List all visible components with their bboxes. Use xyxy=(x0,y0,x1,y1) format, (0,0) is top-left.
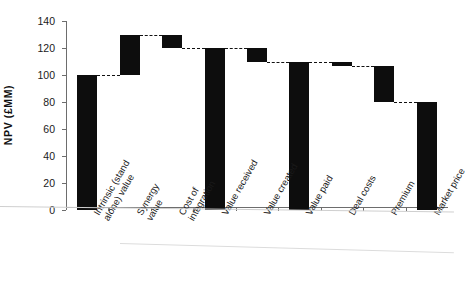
y-tick-label: 80 xyxy=(43,96,55,108)
y-axis-title: NPV (£MM) xyxy=(2,60,14,170)
y-axis-line xyxy=(66,21,67,210)
connector-line xyxy=(352,66,374,67)
bar xyxy=(162,35,182,49)
bar xyxy=(289,62,309,211)
bar xyxy=(247,48,267,62)
bar xyxy=(332,62,352,66)
y-tick-label: 100 xyxy=(37,69,55,81)
y-tick-mark: 20 xyxy=(62,183,66,184)
y-tick-mark: 60 xyxy=(62,129,66,130)
x-axis-labels: Intrinsic (standalone) valueSynergyvalue… xyxy=(66,212,448,297)
connector-line xyxy=(309,62,331,63)
y-tick-label: 60 xyxy=(43,123,55,135)
connector-line xyxy=(225,48,247,49)
y-tick-label: 20 xyxy=(43,177,55,189)
connector-line xyxy=(140,35,162,36)
bar xyxy=(77,75,97,210)
y-tick-mark: 80 xyxy=(62,102,66,103)
y-tick-mark: 120 xyxy=(62,48,66,49)
y-tick-label: 120 xyxy=(37,42,55,54)
connector-line xyxy=(182,48,204,49)
y-tick-mark: 100 xyxy=(62,75,66,76)
bar xyxy=(120,35,140,76)
connector-line xyxy=(394,102,416,103)
connector-line xyxy=(267,62,289,63)
bar xyxy=(374,66,394,102)
y-tick-mark: 0 xyxy=(62,210,66,211)
y-tick-mark: 40 xyxy=(62,156,66,157)
bar xyxy=(417,102,437,210)
y-tick-label: 40 xyxy=(43,150,55,162)
y-tick-label: 140 xyxy=(37,15,55,27)
y-tick-mark: 140 xyxy=(62,21,66,22)
connector-line xyxy=(97,75,119,76)
